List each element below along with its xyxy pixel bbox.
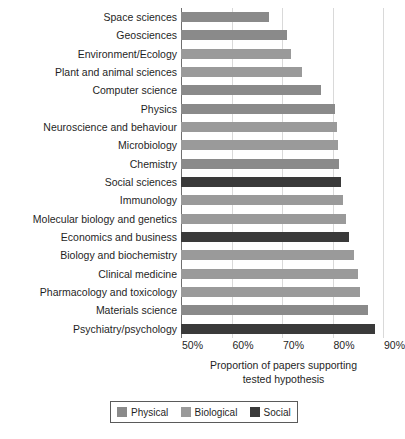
bar-row xyxy=(181,191,383,209)
bar-row xyxy=(181,155,383,173)
bar xyxy=(181,12,269,22)
bar-row xyxy=(181,210,383,228)
y-axis-label: Microbiology xyxy=(0,136,177,154)
y-axis-label: Plant and animal sciences xyxy=(0,63,177,81)
x-axis-tick-label: 80% xyxy=(334,339,355,351)
bar xyxy=(181,67,302,77)
y-axis-label: Molecular biology and genetics xyxy=(0,210,177,228)
y-axis-label: Computer science xyxy=(0,81,177,99)
bar xyxy=(181,159,339,169)
bar xyxy=(181,177,341,187)
bar-row xyxy=(181,136,383,154)
x-axis-tick-label: 60% xyxy=(233,339,254,351)
grid-line-90 xyxy=(383,8,384,338)
y-axis-label: Environment/Ecology xyxy=(0,45,177,63)
y-axis-label: Psychiatry/psychology xyxy=(0,320,177,338)
legend-label: Physical xyxy=(131,407,168,418)
bar-row xyxy=(181,283,383,301)
legend-item: Social xyxy=(250,407,291,418)
bar-row xyxy=(181,173,383,191)
y-axis-label: Economics and business xyxy=(0,228,177,246)
bar-row xyxy=(181,320,383,338)
bar xyxy=(181,250,354,260)
bar-row xyxy=(181,301,383,319)
legend-item: Physical xyxy=(117,407,168,418)
y-axis-label: Chemistry xyxy=(0,155,177,173)
bar xyxy=(181,269,358,279)
y-axis-label: Materials science xyxy=(0,301,177,319)
x-axis-tick-labels: 50%60%70%80%90% xyxy=(181,339,396,355)
legend-label: Social xyxy=(264,407,291,418)
bar-row xyxy=(181,118,383,136)
bar-row xyxy=(181,45,383,63)
bar xyxy=(181,214,346,224)
bar xyxy=(181,104,335,114)
bar xyxy=(181,49,291,59)
bar xyxy=(181,140,338,150)
bar xyxy=(181,122,337,132)
y-axis-label: Neuroscience and behaviour xyxy=(0,118,177,136)
y-axis-label: Immunology xyxy=(0,191,177,209)
y-axis-label: Space sciences xyxy=(0,8,177,26)
bar xyxy=(181,195,343,205)
y-axis-label: Pharmacology and toxicology xyxy=(0,283,177,301)
x-axis-title-line-2: tested hypothesis xyxy=(176,372,391,386)
bar xyxy=(181,30,287,40)
bar xyxy=(181,232,349,242)
plot-area xyxy=(181,8,383,338)
bar-row xyxy=(181,228,383,246)
x-axis-tick-label: 70% xyxy=(283,339,304,351)
x-axis-title-line-1: Proportion of papers supporting xyxy=(176,358,391,372)
bar xyxy=(181,305,368,315)
bar-row xyxy=(181,63,383,81)
x-axis-title: Proportion of papers supporting tested h… xyxy=(176,358,391,386)
legend-swatch-icon xyxy=(250,407,260,417)
x-axis-tick-label: 50% xyxy=(182,339,203,351)
bar-row xyxy=(181,100,383,118)
y-axis-category-labels: Space sciencesGeosciencesEnvironment/Eco… xyxy=(0,8,177,338)
bar xyxy=(181,324,375,334)
y-axis-label: Geosciences xyxy=(0,26,177,44)
legend-swatch-icon xyxy=(117,407,127,417)
bar-row xyxy=(181,246,383,264)
x-axis-tick-label: 90% xyxy=(384,339,405,351)
legend-item: Biological xyxy=(181,407,238,418)
legend-swatch-icon xyxy=(181,407,191,417)
bar-row xyxy=(181,26,383,44)
y-axis-label: Biology and biochemistry xyxy=(0,246,177,264)
bar xyxy=(181,287,360,297)
y-axis-label: Clinical medicine xyxy=(0,265,177,283)
bar xyxy=(181,85,321,95)
bar-row xyxy=(181,8,383,26)
bar-row xyxy=(181,265,383,283)
y-axis-label: Physics xyxy=(0,100,177,118)
y-axis-label: Social sciences xyxy=(0,173,177,191)
bar-row xyxy=(181,81,383,99)
chart-legend: PhysicalBiologicalSocial xyxy=(110,401,298,423)
legend-label: Biological xyxy=(195,407,238,418)
